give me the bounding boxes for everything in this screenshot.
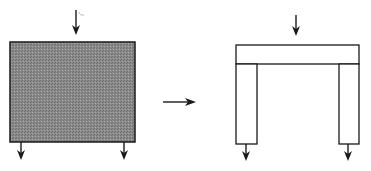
load-arrow-icon xyxy=(72,10,80,35)
transform-arrow-icon xyxy=(163,98,196,106)
frame-right-column xyxy=(339,64,359,144)
portal-frame-figure xyxy=(236,15,359,161)
solid-block-figure xyxy=(10,10,135,160)
frame-beam xyxy=(236,45,359,64)
diagram-canvas xyxy=(0,0,371,171)
support-reaction-arrows xyxy=(242,144,352,161)
load-tick-mark xyxy=(79,12,84,15)
frame-left-column xyxy=(236,64,257,144)
solid-block xyxy=(10,42,135,142)
load-arrow-icon xyxy=(292,15,300,36)
support-reaction-arrows xyxy=(17,142,128,160)
